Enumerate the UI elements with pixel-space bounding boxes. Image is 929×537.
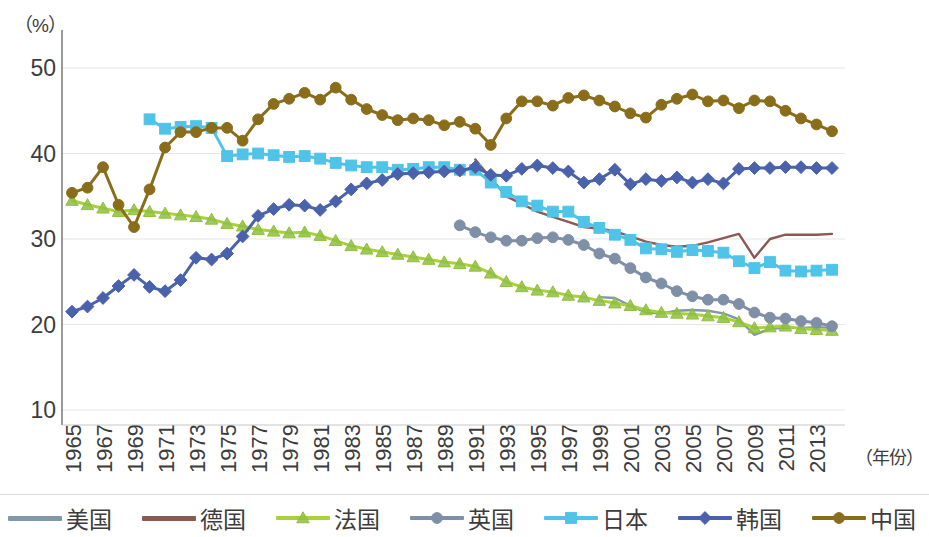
data-point: [532, 200, 543, 211]
legend-label: 日本: [602, 501, 648, 535]
data-point: [515, 162, 528, 175]
data-point: [779, 161, 792, 174]
legend-marker-triangle-icon: [294, 509, 312, 527]
legend-divider: [0, 494, 929, 495]
data-point: [655, 174, 668, 187]
data-point: [392, 115, 403, 126]
data-point: [734, 256, 745, 267]
data-point: [671, 286, 682, 297]
legend-label: 中国: [870, 501, 916, 535]
legend-item-中国[interactable]: 中国: [812, 501, 916, 535]
chart-legend: 美国德国法国英国日本韩国中国: [0, 498, 929, 537]
legend-label: 英国: [468, 501, 514, 535]
data-point: [113, 199, 124, 210]
data-point: [268, 150, 279, 161]
data-point: [237, 135, 248, 146]
data-point: [298, 199, 311, 212]
data-point: [160, 123, 171, 134]
data-point: [827, 321, 838, 332]
data-point: [222, 151, 233, 162]
legend-item-法国[interactable]: 法国: [276, 501, 380, 535]
data-point: [284, 93, 295, 104]
legend-item-日本[interactable]: 日本: [544, 501, 648, 535]
data-point: [361, 162, 372, 173]
data-point: [826, 162, 839, 175]
data-point: [578, 217, 589, 228]
data-point: [299, 87, 310, 98]
data-point: [625, 234, 636, 245]
legend-label: 韩国: [736, 501, 782, 535]
legend-item-美国[interactable]: 美国: [8, 501, 112, 535]
data-point: [656, 278, 667, 289]
data-point: [516, 196, 527, 207]
data-point: [376, 174, 389, 187]
data-point: [640, 243, 651, 254]
data-point: [546, 162, 559, 175]
data-point: [191, 127, 202, 138]
data-point: [780, 313, 791, 324]
data-point: [547, 232, 558, 243]
legend-marker-square-icon: [562, 509, 580, 527]
data-point: [764, 162, 777, 175]
data-point: [500, 169, 513, 182]
data-point: [253, 114, 264, 125]
data-point: [563, 93, 574, 104]
data-point: [439, 120, 450, 131]
data-point: [718, 294, 729, 305]
data-point: [593, 173, 606, 186]
data-point: [609, 229, 620, 240]
data-point: [734, 103, 745, 114]
data-point: [671, 93, 682, 104]
data-point: [780, 265, 791, 276]
data-point: [594, 222, 605, 233]
data-point: [516, 96, 527, 107]
legend-marker-circle-icon: [830, 509, 848, 527]
legend-item-英国[interactable]: 英国: [410, 501, 514, 535]
legend-swatch-triangle-icon: [276, 508, 330, 528]
data-point: [547, 206, 558, 217]
series-line: [72, 88, 832, 227]
data-point: [795, 161, 808, 174]
data-point: [594, 95, 605, 106]
data-point: [718, 247, 729, 258]
legend-marker-circle-icon: [428, 509, 446, 527]
data-point: [360, 177, 373, 190]
data-point: [470, 227, 481, 238]
plot-area: [0, 0, 929, 500]
data-point: [532, 96, 543, 107]
data-point: [734, 299, 745, 310]
data-point: [765, 312, 776, 323]
data-point: [206, 122, 217, 133]
data-point: [563, 234, 574, 245]
legend-label: 美国: [66, 501, 112, 535]
data-point: [346, 160, 357, 171]
data-point: [144, 184, 155, 195]
data-point: [811, 265, 822, 276]
data-point: [578, 90, 589, 101]
legend-label: 德国: [200, 501, 246, 535]
data-point: [377, 110, 388, 121]
data-point: [578, 240, 589, 251]
data-point: [699, 511, 712, 524]
data-point: [408, 113, 419, 124]
data-point: [81, 300, 94, 313]
data-point: [703, 246, 714, 257]
data-point: [485, 140, 496, 151]
data-point: [432, 512, 443, 523]
legend-item-德国[interactable]: 德国: [142, 501, 246, 535]
data-point: [687, 89, 698, 100]
data-point: [299, 151, 310, 162]
data-point: [563, 206, 574, 217]
data-point: [765, 96, 776, 107]
data-point: [205, 253, 218, 266]
data-point: [175, 127, 186, 138]
legend-item-韩国[interactable]: 韩国: [678, 501, 782, 535]
data-point: [284, 152, 295, 163]
data-point: [501, 113, 512, 124]
data-point: [703, 294, 714, 305]
data-point: [268, 99, 279, 110]
data-point: [796, 113, 807, 124]
legend-swatch-none-icon: [142, 508, 196, 528]
data-point: [314, 204, 327, 217]
data-point: [501, 235, 512, 246]
